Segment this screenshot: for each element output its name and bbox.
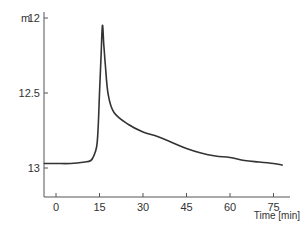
y-axis-label: m [21, 12, 30, 24]
y-tick-label: 12.5 [19, 87, 40, 99]
x-tick-label: 60 [224, 201, 236, 213]
axes [44, 12, 290, 197]
x-tick-label: 45 [180, 201, 192, 213]
data-line [44, 25, 282, 165]
x-axis-label: Time [min] [254, 210, 301, 221]
x-tick-label: 30 [137, 201, 149, 213]
x-axis-ticks: 01530456075 [53, 193, 280, 213]
y-tick-label: 13 [28, 162, 40, 174]
line-chart: 01530456075 1212.513 m Time [min] [0, 0, 305, 227]
x-tick-label: 15 [93, 201, 105, 213]
x-tick-label: 0 [53, 201, 59, 213]
